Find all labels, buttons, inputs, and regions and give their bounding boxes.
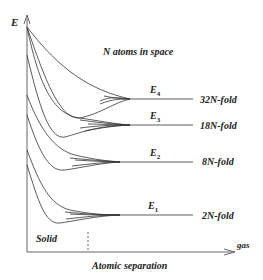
band-e4 [27,27,193,118]
level-name: E [150,147,157,158]
level-subscript: 4 [157,90,161,98]
level-name: E [150,84,157,95]
level-e2-degeneracy: 8N-fold [202,157,234,167]
level-subscript: 2 [157,153,161,161]
level-e1-degeneracy: 2N-fold [202,211,234,221]
band-e3 [27,27,193,137]
x-axis-label: Atomic separation [92,261,167,271]
level-subscript: 3 [157,116,161,124]
level-subscript: 1 [155,206,159,214]
level-e4-degeneracy: 32N-fold [200,95,237,105]
level-e4-label: E4 [150,85,160,98]
level-e2-label: E2 [150,148,160,161]
gas-label: gas [237,241,250,250]
level-e3-label: E3 [150,111,160,124]
y-axis-label: E [11,17,18,28]
level-e3-degeneracy: 18N-fold [200,121,237,131]
level-name: E [150,110,157,121]
title: N atoms in space [103,47,173,57]
solid-region-label: Solid [36,234,57,244]
level-name: E [148,200,155,211]
level-e1-label: E1 [148,201,158,214]
